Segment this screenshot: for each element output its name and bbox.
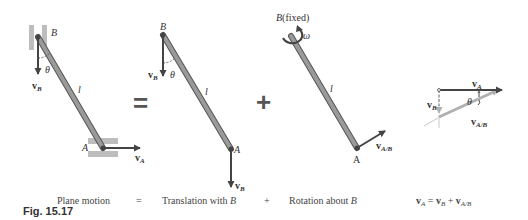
caption-rotation: Rotation about B [289,195,357,206]
equals-operator: = [133,90,148,116]
caption-equals: = [136,195,142,206]
horizontal-guide-bottom [88,151,118,157]
label-length: l [330,84,333,94]
label-angle: θ [170,70,175,80]
caption-equation: vA = vB + vA/B [416,195,471,208]
label-fixed-point: B(fixed) [276,13,309,23]
translation-panel [161,33,234,188]
label-vab: vA/B [471,117,487,129]
plane-motion-panel [29,25,140,157]
label-va: vA [472,79,482,91]
label-point-b: B [51,28,57,38]
label-point-a: A [82,143,88,153]
plus-operator: + [256,89,271,115]
figure-caption: Fig. 15.17 [23,205,73,217]
rotation-panel [283,25,385,151]
label-velocity-b: vB [32,81,42,93]
label-point-a: A [234,145,240,155]
vertical-guide-left [29,25,34,50]
label-angle: θ [45,65,50,75]
label-length: l [205,87,208,97]
rod [291,36,357,148]
label-vb: vB [427,100,437,112]
label-velocity-a: vA [135,153,145,165]
label-point-a: A [353,155,360,165]
guide-line [424,118,438,126]
label-omega: ω [303,31,310,41]
label-angle: θ [467,97,472,107]
label-length: l [78,85,81,95]
angle-arc [163,59,174,63]
rod [38,37,103,148]
rod [163,35,231,149]
label-point-b: B [160,22,166,32]
caption-plus: + [264,195,270,206]
label-velocity-b-top: vB [148,70,158,82]
label-velocity-b-bottom: vB [235,181,245,193]
caption-translation: Translation with B [162,195,236,206]
label-velocity-ab: vA/B [376,141,392,153]
